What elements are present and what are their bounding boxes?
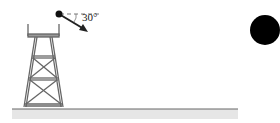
angle-label: 30° (82, 11, 97, 23)
diagram-canvas (0, 0, 280, 123)
ground (12, 109, 238, 119)
angle-arc (74, 14, 76, 22)
black-circle (250, 15, 280, 45)
projectile-ball (56, 11, 63, 18)
tower (24, 24, 63, 107)
